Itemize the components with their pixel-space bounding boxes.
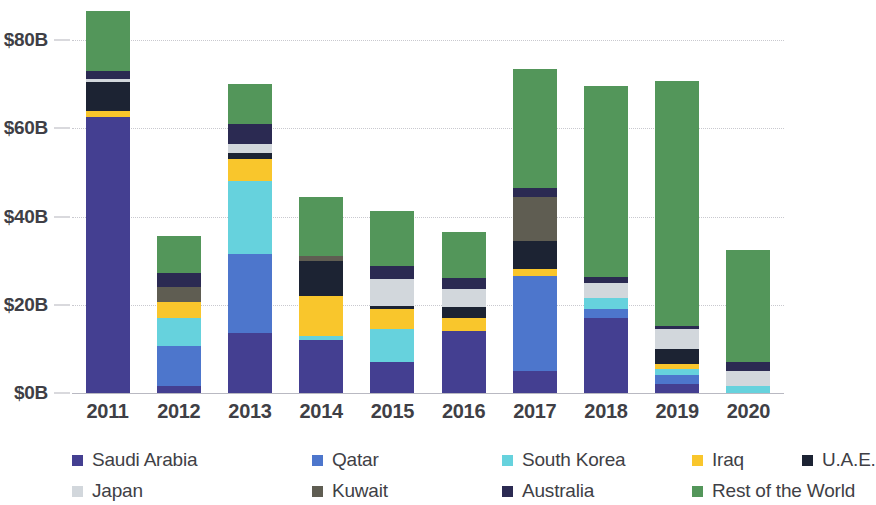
legend-label: Qatar [332,449,379,471]
legend-swatch-icon [502,455,513,466]
bar-segment [86,117,130,393]
plot-area: $0B$20B$40B$60B$80B [72,8,784,394]
bar-segment [228,144,272,153]
bar-segment [299,261,343,296]
legend-label: Rest of the World [712,480,855,502]
bar-segment [157,386,201,393]
x-axis-tick-label-2016: 2016 [442,400,485,423]
bar-segment [442,318,486,331]
bar-segment [442,232,486,278]
bar-segment [442,289,486,307]
chart-legend: Saudi ArabiaQatarSouth KoreaIraqU.A.E.Ja… [72,449,788,505]
bar-segment [370,362,414,393]
bar-segment [299,296,343,336]
legend-swatch-icon [802,455,813,466]
bar-segment [157,346,201,386]
legend-item[interactable]: Rest of the World [692,480,855,502]
x-axis-tick-label-2017: 2017 [513,400,556,423]
bar-segment [370,329,414,362]
bar-segment [370,309,414,329]
legend-label: Kuwait [332,480,388,502]
x-axis-tick-labels: 2011201220132014201520162017201820192020 [72,400,784,434]
legend-swatch-icon [692,486,703,497]
legend-item[interactable]: Saudi Arabia [72,449,197,471]
y-axis-tick-mark [54,216,70,217]
legend-label: Saudi Arabia [92,449,197,471]
y-axis-tick-label: $0B [0,382,48,404]
bar-segment [370,211,414,266]
bar-segment [726,386,770,393]
legend-item[interactable]: Kuwait [312,480,388,502]
bar-segment [157,302,201,317]
bar-segment [655,384,699,393]
bar-segment [655,369,699,376]
bar-segment [299,340,343,393]
legend-item[interactable]: Iraq [692,449,744,471]
bar-segment [726,362,770,371]
bar-segment [228,333,272,393]
bar-segment [726,250,770,363]
bar-segment [584,86,628,278]
bar-group [72,8,784,394]
bar-segment [228,159,272,181]
x-axis-tick-label-2015: 2015 [371,400,414,423]
bar-segment [584,298,628,309]
bar-segment [86,71,130,79]
legend-swatch-icon [72,486,83,497]
bar-segment [655,81,699,326]
bar-segment [370,266,414,279]
y-axis-tick-mark [54,40,70,41]
bar-segment [86,82,130,111]
bar-segment [655,329,699,349]
legend-item[interactable]: Australia [502,480,594,502]
legend-item[interactable]: U.A.E. [802,449,876,471]
bar-segment [370,279,414,305]
legend-label: South Korea [522,449,625,471]
bar-2013 [228,84,272,393]
bar-2015 [370,211,414,393]
legend-swatch-icon [312,486,323,497]
bar-segment [442,278,486,289]
legend-label: Japan [92,480,143,502]
bar-segment [157,287,201,302]
y-axis-tick-label: $60B [0,117,48,139]
legend-item[interactable]: South Korea [502,449,625,471]
bar-2011 [86,11,130,393]
y-axis-tick-mark [54,304,70,305]
x-axis-tick-label-2011: 2011 [86,400,128,423]
x-axis-tick-label-2020: 2020 [727,400,770,423]
bar-segment [513,197,557,241]
bar-2016 [442,232,486,393]
legend-swatch-icon [312,455,323,466]
bar-segment [157,273,201,286]
bar-segment [655,375,699,384]
bar-segment [726,371,770,386]
x-axis-tick-label-2019: 2019 [656,400,699,423]
bar-2012 [157,236,201,393]
legend-item[interactable]: Japan [72,480,143,502]
bar-segment [513,276,557,371]
x-axis-tick-label-2013: 2013 [228,400,271,423]
legend-swatch-icon [72,455,83,466]
bar-segment [442,307,486,318]
bar-segment [584,318,628,393]
bar-segment [157,318,201,347]
bar-segment [442,331,486,393]
bar-segment [584,283,628,298]
y-axis-tick-mark [54,128,70,129]
bar-segment [228,153,272,160]
legend-item[interactable]: Qatar [312,449,379,471]
x-axis-tick-label-2018: 2018 [584,400,627,423]
bar-segment [228,124,272,144]
bar-segment [513,371,557,393]
bar-2020 [726,250,770,393]
bar-segment [655,349,699,364]
bar-2017 [513,69,557,393]
bar-2019 [655,81,699,393]
bar-segment [513,269,557,276]
bar-segment [228,84,272,124]
bar-segment [228,254,272,333]
bar-segment [513,188,557,197]
legend-label: Iraq [712,449,744,471]
